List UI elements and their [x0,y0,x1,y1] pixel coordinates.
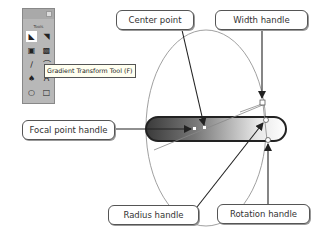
line-tool-icon[interactable]: ∕ [26,59,37,70]
focal-point-handle-label: Focal point handle [22,120,115,140]
close-icon[interactable] [46,11,52,17]
width-handle[interactable] [260,100,265,105]
rectangle-tool-icon[interactable]: □ [41,87,52,98]
radius-handle[interactable] [264,118,269,123]
focal-point-handle[interactable] [193,127,196,130]
pen-tool-icon[interactable]: ♠ [26,73,37,84]
rotation-handle[interactable] [266,138,271,143]
center-point-leader [182,30,204,125]
gradient-transform-tool-icon[interactable]: ▩ [41,45,52,56]
oval-tool-icon[interactable]: ○ [26,87,37,98]
center-point-handle[interactable] [203,126,206,129]
rotation-handle-label: Rotation handle [217,204,310,224]
tools-panel-titlebar[interactable] [23,9,54,19]
selection-tool-icon[interactable]: ◣ [26,31,37,42]
gradient-transform-tooltip: Gradient Transform Tool (F) [44,64,136,78]
width-handle-label: Width handle [215,10,308,30]
width-handle-connector [240,104,262,112]
subselection-tool-icon[interactable]: ◥ [41,31,52,42]
free-transform-tool-icon[interactable]: ▣ [26,45,37,56]
center-point-label: Center point [116,10,194,30]
tools-panel: Tools ◣ ◥ ▣ ▩ ∕ ⌒ ♠ A ○ □ [22,8,55,104]
radius-handle-label: Radius handle [108,205,199,225]
